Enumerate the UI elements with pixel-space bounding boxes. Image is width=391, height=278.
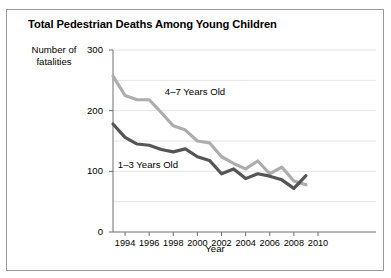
y-tick-label: 200 (73, 105, 103, 116)
x-axis-label: Year (115, 243, 315, 254)
series-annotation-1: 4–7 Years Old (165, 86, 225, 97)
y-tick-label: 300 (73, 44, 103, 55)
y-tick-label: 100 (73, 165, 103, 176)
chart-figure: Total Pedestrian Deaths Among Young Chil… (0, 0, 391, 278)
series-line-2 (113, 124, 306, 188)
y-tick-label: 0 (73, 226, 103, 237)
series-annotation-2: 1–3 Years Old (118, 159, 178, 170)
plot-area (0, 0, 391, 278)
